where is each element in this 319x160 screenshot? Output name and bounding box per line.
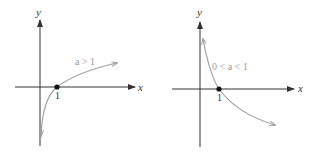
log-curve-decreasing-tail	[219, 89, 275, 125]
right-panel: x y 1 0 < a < 1	[172, 6, 303, 147]
curve-label: a > 1	[75, 56, 95, 67]
point-1-0	[216, 86, 221, 91]
tick-label-1: 1	[217, 92, 222, 103]
curve-label: 0 < a < 1	[212, 61, 248, 72]
x-axis-label: x	[297, 82, 303, 94]
x-axis-label: x	[137, 81, 143, 93]
point-1-0	[54, 84, 59, 89]
log-graphs-figure: x y 1 a > 1 x y 1 0 < a < 1	[0, 0, 319, 160]
log-curve-increasing	[41, 63, 117, 136]
left-panel: x y 1 a > 1	[15, 6, 143, 146]
tick-label-1: 1	[55, 90, 60, 101]
y-axis-label: y	[35, 6, 41, 18]
y-axis-label: y	[196, 6, 202, 18]
